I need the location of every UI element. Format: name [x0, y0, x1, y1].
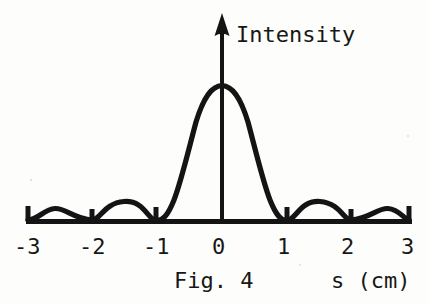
- x-tick-label--2: -2: [79, 236, 106, 258]
- y-axis-label: Intensity: [236, 24, 355, 46]
- y-axis-arrowhead-icon: [215, 13, 230, 36]
- scan-speck: [299, 264, 301, 266]
- x-tick-label-3: 3: [401, 236, 414, 258]
- x-tick-label--1: -1: [143, 236, 170, 258]
- x-tick-label-1: 1: [277, 236, 290, 258]
- x-tick-label--3: -3: [14, 236, 41, 258]
- figure-caption: Fig. 4: [174, 270, 253, 292]
- intensity-curve: [28, 86, 409, 221]
- scan-speck: [407, 135, 409, 137]
- x-axis-label: s (cm): [331, 270, 410, 292]
- figure-container: Intensity -3 -2 -1 0 1 2 3 Fig. 4 s (cm): [0, 0, 428, 303]
- x-tick-label-2: 2: [341, 236, 354, 258]
- x-tick-label-0: 0: [212, 236, 225, 258]
- scan-speck: [30, 179, 32, 181]
